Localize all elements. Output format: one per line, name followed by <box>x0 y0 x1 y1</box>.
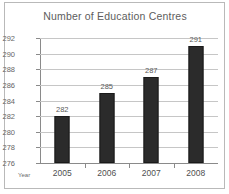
x-axis-title: Year <box>18 172 30 178</box>
y-axis-tick-label: 284 <box>0 96 15 105</box>
bar[interactable] <box>55 116 70 163</box>
bar-value-label: 282 <box>56 105 69 114</box>
y-axis-tick-label: 276 <box>0 159 15 168</box>
y-axis-tick-label: 286 <box>0 80 15 89</box>
y-axis-tick-label: 288 <box>0 65 15 74</box>
bar-group: 291 <box>174 38 219 163</box>
chart-title: Number of Education Centres <box>10 10 220 22</box>
bar-value-label: 287 <box>145 66 158 75</box>
bar-series: 282285287291 <box>40 38 218 163</box>
x-axis-tick-label: 2006 <box>97 168 116 178</box>
y-axis-tick-label: 280 <box>0 127 15 136</box>
bar-value-label: 291 <box>189 35 202 44</box>
chart-screenshot: Number of Education Centres 276278280282… <box>0 0 229 194</box>
x-axis-tick-label: 2007 <box>142 168 161 178</box>
bar-value-label: 285 <box>100 82 113 91</box>
bar-group: 287 <box>129 38 174 163</box>
y-axis-labels: 276278280282284286288290292 <box>0 0 40 194</box>
x-axis-tick-label: 2005 <box>53 168 72 178</box>
y-axis-tick-label: 282 <box>0 112 15 121</box>
bar-group: 285 <box>85 38 130 163</box>
y-axis-tick-label: 278 <box>0 143 15 152</box>
bar[interactable] <box>188 46 203 163</box>
bar-group: 282 <box>40 38 85 163</box>
plot-area: 282285287291 <box>40 38 218 163</box>
x-axis-tick-label: 2008 <box>186 168 205 178</box>
y-axis-tick-label: 290 <box>0 49 15 58</box>
bar[interactable] <box>99 93 114 163</box>
y-axis-tick-label: 292 <box>0 34 15 43</box>
bar[interactable] <box>144 77 159 163</box>
x-axis-labels: 2005200620072008 <box>40 168 218 182</box>
